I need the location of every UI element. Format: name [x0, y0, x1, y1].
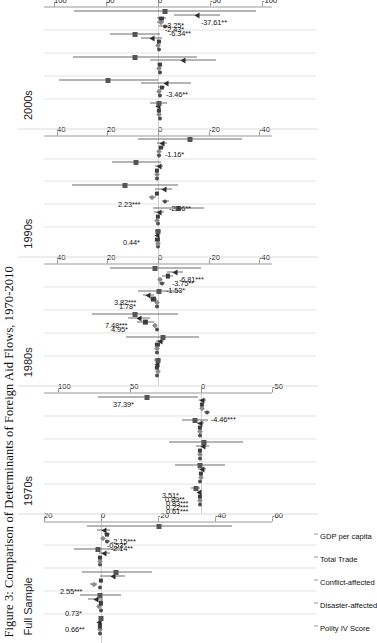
value-label: -2.15***: [111, 536, 136, 545]
data-point-square: [143, 319, 147, 323]
value-axis: -40-2002040: [44, 135, 272, 136]
category-separator: [44, 438, 316, 439]
data-point-plus: [202, 440, 207, 445]
category-separator: [44, 544, 316, 545]
data-point-plus: [198, 463, 203, 468]
category-separator: [44, 415, 316, 416]
value-label: 7.48***: [105, 320, 127, 329]
value-axis: -60-40-20020: [44, 521, 272, 522]
figure-title: Figure 3: Comparison of Determinants of …: [2, 266, 17, 637]
panel-title: 1970s: [22, 475, 34, 505]
data-point-plus: [133, 311, 138, 316]
panel-2000s: 2000s-3.46**-6.34**-2.43*-3.25*-37.61**-…: [18, 0, 318, 129]
data-point-triangle: [149, 35, 154, 41]
category-label: GDP per capita: [320, 531, 372, 540]
data-point-plus: [96, 547, 101, 552]
panel-1970s: 1970s0.61***0.22***0.83***0.89**3.51*-4.…: [18, 386, 318, 515]
data-point-triangle: [194, 12, 199, 18]
category-separator: [44, 52, 316, 53]
plot-area: 0.61***0.22***0.83***0.89**3.51*-4.46***…: [44, 386, 272, 514]
plot-area: 0.66**0.73*2.55***-2.14**-0.53*-2.15***: [44, 514, 272, 643]
value-label: -6.81***: [179, 274, 204, 283]
data-point-plus: [145, 394, 150, 399]
value-axis: -100-50050100: [44, 6, 272, 7]
data-point-triangle: [198, 420, 203, 426]
data-point-plus: [157, 288, 162, 293]
data-point-triangle: [157, 163, 162, 169]
panel-1980s: 1980s4.95*7.48***1.78*3.82***-1.53*-3.75…: [18, 257, 318, 386]
data-point-square: [157, 39, 161, 43]
category-separator: [44, 355, 316, 356]
data-point-plus: [106, 77, 111, 82]
axis-tick-label: -100: [262, 0, 277, 5]
data-point-square: [157, 62, 161, 66]
value-label: 0.66**: [65, 624, 85, 633]
data-point-triangle: [159, 140, 164, 146]
axis-tick-label: 0: [158, 0, 162, 5]
data-point-square: [99, 601, 103, 605]
category-separator: [44, 309, 316, 310]
category-tick: [314, 602, 318, 603]
data-point-triangle: [146, 292, 151, 298]
category-separator: [44, 226, 316, 227]
data-point-plus: [98, 592, 103, 597]
value-label: 2.23***: [118, 199, 140, 208]
data-point-plus: [187, 137, 192, 142]
data-point-triangle: [164, 80, 169, 86]
data-point-plus: [155, 229, 160, 234]
data-point-plus: [153, 266, 158, 271]
data-point-plus: [163, 8, 168, 13]
axis-tick-label: -50: [210, 0, 221, 5]
data-point-plus: [155, 357, 160, 362]
category-separator: [44, 567, 316, 568]
data-point-square: [165, 274, 169, 278]
data-point-triangle: [102, 550, 107, 556]
data-point-square: [159, 16, 163, 20]
data-point-triangle: [200, 397, 205, 403]
category-tick: [314, 533, 318, 534]
data-point-plus: [193, 417, 198, 422]
category-label: Disaster-affected: [320, 600, 377, 609]
data-point-plus: [114, 570, 119, 575]
data-point-circle: [98, 585, 102, 589]
panel-title: 1980s: [22, 347, 34, 377]
value-label: 37.39*: [113, 399, 134, 408]
value-label: 3.82***: [114, 297, 136, 306]
data-point-plus: [98, 615, 103, 620]
category-separator: [44, 484, 316, 485]
value-label: -2.96**: [169, 203, 191, 212]
data-point-triangle: [156, 209, 161, 215]
category-tick: [314, 625, 318, 626]
data-point-plus: [133, 54, 138, 59]
data-point-circle: [205, 410, 209, 414]
plot-area: 4.95*7.48***1.78*3.82***-1.53*-3.75**-6.…: [44, 257, 272, 385]
data-point-triangle: [173, 269, 178, 275]
data-point-triangle: [101, 527, 106, 533]
category-tick: [314, 579, 318, 580]
data-point-plus: [160, 334, 165, 339]
panel-title: 2000s: [22, 90, 34, 120]
data-point-plus: [193, 486, 198, 491]
category-label: Conflict-affected: [320, 577, 375, 586]
panel-title: 1990s: [22, 218, 34, 248]
data-point-circle: [160, 281, 164, 285]
category-label: Total Trade: [320, 554, 358, 563]
axis-tick-label: 100: [54, 0, 67, 5]
data-point-plus: [134, 160, 139, 165]
data-point-plus: [123, 183, 128, 188]
panel-full-sample: Full Sample0.66**0.73*2.55***-2.14**-0.5…: [18, 514, 318, 643]
plot-area: -3.46**-6.34**-2.43*-3.25*-37.61**: [44, 0, 272, 128]
category-separator: [44, 613, 316, 614]
panel-strip: Full Sample0.66**0.73*2.55***-2.14**-0.5…: [18, 0, 318, 643]
value-label: 2.55***: [60, 586, 82, 595]
value-axis: -40-2002040: [44, 263, 272, 264]
category-separator: [44, 590, 316, 591]
category-tick: [314, 556, 318, 557]
value-label: -37.61**: [201, 17, 227, 26]
panel-1990s: 1990s0.44*-2.96**2.23***-1.16*-40-200204…: [18, 129, 318, 258]
axis-tick-label: 50: [106, 0, 114, 5]
value-label: 0.44*: [123, 237, 140, 246]
data-point-square: [155, 191, 159, 195]
